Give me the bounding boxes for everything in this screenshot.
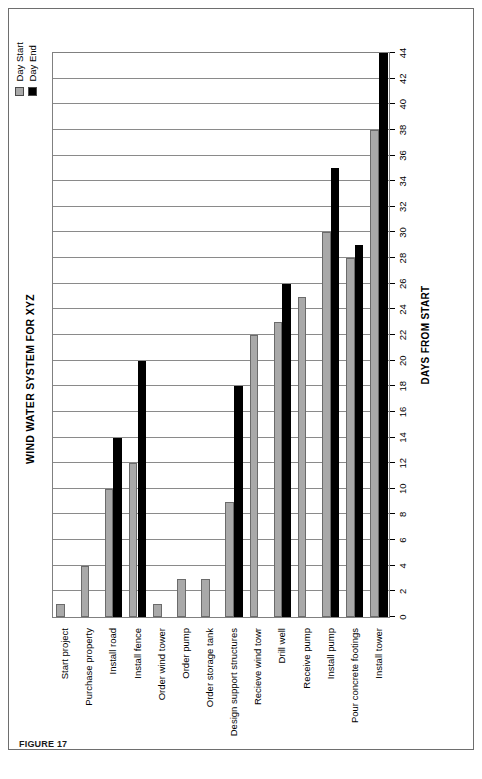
category-label: Install pump <box>324 628 335 679</box>
axis-tick <box>390 385 395 386</box>
axis-tick-label: 6 <box>397 537 408 542</box>
category-label: Drill well <box>276 628 287 663</box>
axis-tick-label: 44 <box>397 48 408 59</box>
bar-day-start <box>201 579 210 617</box>
axis-tick-label: 34 <box>397 176 408 187</box>
bar-day-start <box>298 297 307 617</box>
bar-day-end <box>331 168 340 617</box>
legend-swatch-day-end <box>28 87 37 96</box>
axis-tick <box>390 231 395 232</box>
plot-wrapper <box>52 52 390 618</box>
axis-tick-label: 28 <box>397 253 408 264</box>
axis-tick <box>390 78 395 79</box>
axis-tick <box>390 488 395 489</box>
bar-day-end <box>355 245 364 617</box>
axis-tick-label: 0 <box>397 614 408 619</box>
axis-tick-label: 12 <box>397 458 408 469</box>
axis-tick-label: 38 <box>397 125 408 136</box>
axis-tick-label: 10 <box>397 484 408 495</box>
plot-area <box>52 52 390 618</box>
category-label: Install tower <box>372 628 383 679</box>
axis-tick-label: 18 <box>397 381 408 392</box>
axis-tick <box>390 565 395 566</box>
category-label: Install fence <box>131 628 142 679</box>
gridline <box>53 155 389 156</box>
category-label: Purchase property <box>83 628 94 706</box>
axis-tick <box>390 513 395 514</box>
bar-day-start <box>346 258 355 617</box>
bar-day-start <box>370 130 379 617</box>
axis-tick <box>390 52 395 53</box>
legend-item-day-end: Day End <box>27 42 38 96</box>
gridline <box>53 103 389 104</box>
category-label: Order pump <box>179 628 190 679</box>
axis-tick <box>390 437 395 438</box>
category-label: Order wind tower <box>155 628 166 700</box>
category-label: Install road <box>107 628 118 674</box>
value-axis: 0246810121416182022242628303234363840424… <box>390 52 424 618</box>
bar-day-start <box>274 322 283 617</box>
category-label: Order storage tank <box>203 628 214 707</box>
axis-tick-label: 16 <box>397 407 408 418</box>
legend-label-day-end: Day End <box>27 45 38 81</box>
axis-tick <box>390 462 395 463</box>
axis-tick-label: 32 <box>397 202 408 213</box>
axis-tick <box>390 206 395 207</box>
bar-day-start <box>177 579 186 617</box>
bar-day-end <box>379 53 388 617</box>
bar-day-end <box>138 361 147 617</box>
bar-day-start <box>322 232 331 617</box>
axis-tick <box>390 616 395 617</box>
axis-tick-label: 42 <box>397 73 408 84</box>
bar-day-end <box>234 386 243 617</box>
category-label: Receive pump <box>300 628 311 689</box>
bar-day-start <box>105 489 114 617</box>
axis-tick <box>390 257 395 258</box>
axis-tick-label: 40 <box>397 99 408 110</box>
axis-tick <box>390 590 395 591</box>
bar-day-start <box>129 463 138 617</box>
axis-tick-label: 24 <box>397 304 408 315</box>
gridline <box>53 129 389 130</box>
legend-label-day-start: Day Start <box>14 42 25 82</box>
axis-tick-label: 14 <box>397 432 408 443</box>
axis-tick-label: 22 <box>397 330 408 341</box>
axis-tick <box>390 155 395 156</box>
chart-title: WIND WATER SYSTEM FOR XYZ <box>24 8 36 750</box>
axis-tick-label: 20 <box>397 355 408 366</box>
axis-tick <box>390 411 395 412</box>
category-label: Design support structures <box>228 628 239 736</box>
bar-day-end <box>113 438 122 617</box>
category-axis-labels: Start projectPurchase propertyInstall ro… <box>52 622 390 750</box>
category-label: Recieve wind towr <box>252 628 263 705</box>
rotated-chart-stage: WIND WATER SYSTEM FOR XYZ Day Start Day … <box>8 8 474 750</box>
chart-legend: Day Start Day End <box>14 42 38 96</box>
axis-tick <box>390 334 395 335</box>
category-label: Pour concrete footings <box>348 628 359 723</box>
bar-day-start <box>56 604 65 617</box>
axis-tick <box>390 103 395 104</box>
bar-day-start <box>225 502 234 617</box>
axis-tick <box>390 308 395 309</box>
figure-frame: WIND WATER SYSTEM FOR XYZ Day Start Day … <box>8 8 474 750</box>
axis-tick-label: 4 <box>397 563 408 568</box>
category-label: Start project <box>59 628 70 679</box>
bar-day-start <box>81 566 90 617</box>
axis-tick-label: 2 <box>397 589 408 594</box>
legend-item-day-start: Day Start <box>14 42 25 96</box>
axis-tick <box>390 360 395 361</box>
figure-caption: FIGURE 17 <box>19 739 67 749</box>
axis-tick <box>390 283 395 284</box>
bar-day-end <box>282 284 291 617</box>
axis-tick-label: 36 <box>397 150 408 161</box>
axis-tick <box>390 180 395 181</box>
gridline <box>53 78 389 79</box>
bar-day-start <box>153 604 162 617</box>
axis-tick-label: 26 <box>397 278 408 289</box>
axis-tick <box>390 129 395 130</box>
value-axis-title: DAYS FROM START <box>420 52 431 618</box>
bar-day-start <box>250 335 259 617</box>
axis-tick-label: 8 <box>397 512 408 517</box>
legend-swatch-day-start <box>15 87 24 96</box>
axis-tick-label: 30 <box>397 227 408 238</box>
